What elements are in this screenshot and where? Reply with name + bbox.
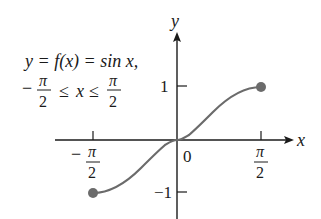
sine-graph: y x y = f(x) = sin x, − π 2 ≤ x ≤ π 2 − … [0,0,321,219]
y-tick-label-1: 1 [160,77,169,96]
svg-text:−: − [71,144,81,164]
leq-sign-2: ≤ [89,81,99,101]
pi-numerator-left: π [39,72,48,89]
x-tick-label-pi-half: π 2 [254,143,268,181]
minus-sign: − [22,78,32,98]
x-tick-label-zero: 0 [183,147,192,166]
x-variable: x [75,81,84,101]
x-tick-label-neg-pi-half: − π 2 [71,143,100,181]
two-denominator-right: 2 [109,93,117,110]
y-tick-label-neg1: −1 [154,183,172,202]
leq-sign-1: ≤ [59,81,69,101]
two-denominator-left: 2 [39,93,47,110]
svg-text:π: π [256,143,265,160]
endpoint-left-dot [88,188,98,198]
pi-numerator-right: π [109,72,118,89]
svg-text:2: 2 [88,164,96,181]
svg-text:π: π [88,143,97,160]
endpoint-right-dot [256,82,266,92]
y-axis-label: y [169,11,179,31]
equation-line-1: y = f(x) = sin x, [23,51,138,72]
x-axis-label: x [296,130,305,150]
domain-inequality: − π 2 ≤ x ≤ π 2 [22,72,121,110]
svg-text:2: 2 [256,164,264,181]
